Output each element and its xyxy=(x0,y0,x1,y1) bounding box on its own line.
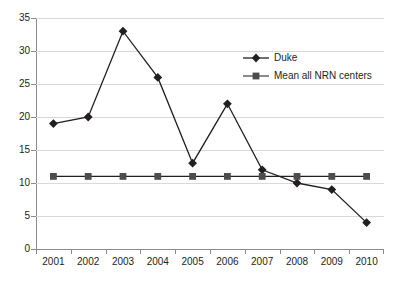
y-axis-tick xyxy=(31,216,36,217)
y-axis-tick xyxy=(31,51,36,52)
x-axis-tick-label: 2005 xyxy=(181,256,203,268)
legend-item-duke: Duke xyxy=(243,50,389,66)
x-axis-ticks xyxy=(36,249,384,254)
y-axis-tick xyxy=(31,183,36,184)
x-axis-tick xyxy=(106,249,107,254)
y-axis-tick-label: 5 xyxy=(24,211,30,221)
x-axis-tick-label: 2006 xyxy=(216,256,238,268)
data-point-marker-square xyxy=(224,173,231,180)
data-point-marker-diamond xyxy=(49,119,58,128)
line-chart: 05101520253035 2001200220032004200520062… xyxy=(0,0,393,281)
data-point-marker-square xyxy=(363,173,370,180)
x-axis-tick-label: 2010 xyxy=(355,256,377,268)
y-axis-tick xyxy=(31,249,36,250)
y-axis-tick xyxy=(31,117,36,118)
y-axis-tick-label: 30 xyxy=(19,46,30,56)
x-axis-tick-label: 2009 xyxy=(321,256,343,268)
y-axis-tick xyxy=(31,18,36,19)
data-point-marker-diamond xyxy=(188,159,197,168)
y-axis-tick-label: 20 xyxy=(19,112,30,122)
x-axis-tick xyxy=(140,249,141,254)
x-axis-tick xyxy=(210,249,211,254)
legend-marker-diamond-icon xyxy=(243,52,269,64)
x-axis-tick-label: 2003 xyxy=(112,256,134,268)
x-axis-tick xyxy=(71,249,72,254)
x-axis-tick-label: 2002 xyxy=(77,256,99,268)
x-axis-tick xyxy=(314,249,315,254)
x-axis-tick xyxy=(280,249,281,254)
legend-label-duke: Duke xyxy=(274,52,297,64)
x-axis-tick-label: 2007 xyxy=(251,256,273,268)
data-point-marker-diamond xyxy=(293,179,302,188)
legend-label-nrn: Mean all NRN centers xyxy=(274,70,372,82)
x-axis-tick-label: 2004 xyxy=(147,256,169,268)
data-point-marker-square xyxy=(120,173,127,180)
y-axis-tick xyxy=(31,84,36,85)
chart-legend: Duke Mean all NRN centers xyxy=(243,50,389,86)
data-point-marker-square xyxy=(189,173,196,180)
data-point-marker-diamond xyxy=(258,165,267,174)
y-axis-tick-label: 35 xyxy=(19,13,30,23)
y-axis-tick-label: 15 xyxy=(19,145,30,155)
data-point-marker-square xyxy=(50,173,57,180)
data-point-marker-diamond xyxy=(84,113,93,122)
x-axis-tick xyxy=(175,249,176,254)
legend-item-nrn: Mean all NRN centers xyxy=(243,68,389,84)
data-point-marker-square xyxy=(85,173,92,180)
data-point-marker-square xyxy=(154,173,161,180)
x-axis-tick xyxy=(383,249,384,254)
x-axis-tick xyxy=(245,249,246,254)
x-axis-tick xyxy=(349,249,350,254)
data-point-marker-square xyxy=(328,173,335,180)
y-axis-tick xyxy=(31,150,36,151)
x-axis-tick-label: 2008 xyxy=(286,256,308,268)
x-axis-tick-label: 2001 xyxy=(42,256,64,268)
data-point-marker-square xyxy=(294,173,301,180)
x-axis-labels: 2001200220032004200520062007200820092010 xyxy=(36,256,384,272)
y-axis-labels: 05101520253035 xyxy=(0,18,30,249)
x-axis-tick xyxy=(36,249,37,254)
y-axis-tick-label: 0 xyxy=(24,244,30,254)
data-point-marker-diamond xyxy=(223,99,232,108)
data-point-marker-square xyxy=(259,173,266,180)
y-axis-tick-label: 25 xyxy=(19,79,30,89)
y-axis-tick-label: 10 xyxy=(19,178,30,188)
legend-marker-square-icon xyxy=(243,70,269,82)
